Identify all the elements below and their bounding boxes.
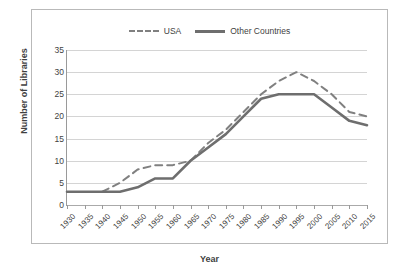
- x-axis-tick-mark: [367, 205, 368, 209]
- x-axis-tick-mark: [155, 205, 156, 209]
- x-axis-tick-mark: [85, 205, 86, 209]
- y-axis-tick-label: 15: [38, 134, 64, 144]
- y-axis-tick-label: 35: [38, 45, 64, 55]
- x-axis-tick-mark: [208, 205, 209, 209]
- series-layer: [67, 50, 367, 205]
- x-axis-tick-mark: [279, 205, 280, 209]
- x-axis-tick-mark: [261, 205, 262, 209]
- x-axis-tick-mark: [243, 205, 244, 209]
- y-axis-tick-label: 5: [38, 178, 64, 188]
- x-axis-tick-mark: [67, 205, 68, 209]
- x-axis-tick-mark: [349, 205, 350, 209]
- chart-figure: USA Other Countries Number of Libraries …: [0, 0, 420, 277]
- legend-label-usa: USA: [164, 26, 181, 36]
- chart-legend: USA Other Countries: [31, 22, 388, 40]
- plot-area: [67, 50, 367, 205]
- x-axis-tick-mark: [332, 205, 333, 209]
- legend-entry-usa: USA: [129, 26, 181, 36]
- x-axis-tick-mark: [226, 205, 227, 209]
- x-axis-tick-mark: [102, 205, 103, 209]
- y-axis-tick-labels: 05101520253035: [32, 50, 64, 205]
- y-axis-tick-label: 30: [38, 67, 64, 77]
- x-axis-tick-mark: [314, 205, 315, 209]
- series-line-usa: [102, 72, 367, 192]
- x-axis-tick-labels: 1930193519401945195019551960196519701975…: [67, 205, 367, 245]
- y-axis-tick-label: 20: [38, 111, 64, 121]
- x-axis-tick-mark: [138, 205, 139, 209]
- y-axis-tick-label: 25: [38, 89, 64, 99]
- x-axis-tick-mark: [191, 205, 192, 209]
- y-axis-tick-label: 10: [38, 156, 64, 166]
- x-axis-tick-mark: [296, 205, 297, 209]
- x-axis-title: Year: [31, 254, 388, 264]
- legend-label-other-countries: Other Countries: [230, 26, 290, 36]
- legend-entry-other-countries: Other Countries: [195, 26, 290, 36]
- series-line-other-countries: [67, 94, 367, 191]
- x-axis-tick-mark: [173, 205, 174, 209]
- y-axis-title: Number of Libraries: [19, 21, 29, 161]
- legend-swatch-dashed-icon: [129, 30, 159, 32]
- legend-swatch-solid-icon: [195, 30, 225, 33]
- x-axis-tick-mark: [120, 205, 121, 209]
- y-axis-tick-label: 0: [38, 200, 64, 210]
